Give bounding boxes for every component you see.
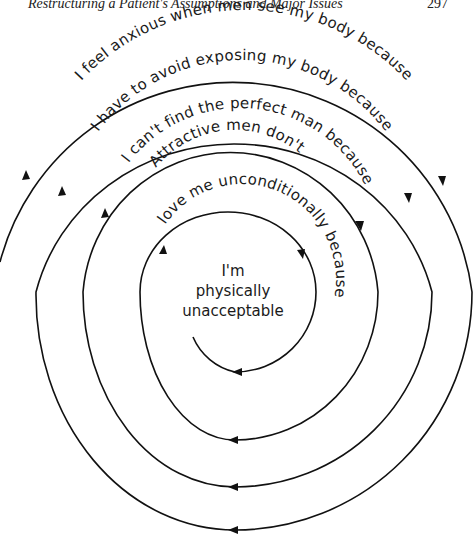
- arrow-left-icon: [228, 483, 238, 491]
- arrow-down-icon: [438, 176, 446, 186]
- arrow-left-icon: [232, 368, 242, 376]
- spiral-diagram: I feel anxious when men see my body beca…: [0, 0, 474, 538]
- arrow-up-icon: [22, 170, 30, 180]
- core-belief-line1: I'm: [221, 262, 244, 280]
- arrow-down-icon: [297, 249, 305, 259]
- core-belief-line3: unacceptable: [182, 302, 283, 320]
- core-belief-line2: physically: [196, 282, 271, 300]
- core-belief: I'm physically unacceptable: [182, 262, 283, 320]
- arrow-up-icon: [58, 186, 66, 196]
- arrow-left-icon: [228, 436, 238, 444]
- arrow-up-icon: [159, 245, 167, 254]
- arrow-down-icon: [404, 193, 412, 203]
- arrow-left-icon: [228, 526, 238, 534]
- level-4-label-line2: love me unconditionally because: [154, 170, 350, 299]
- arrow-up-icon: [101, 208, 109, 218]
- level-1-label: I feel anxious when men see my body beca…: [71, 0, 417, 84]
